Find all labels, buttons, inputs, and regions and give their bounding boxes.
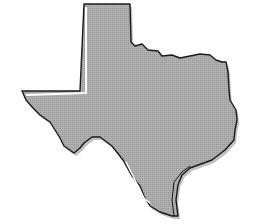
texas-highlight (26, 7, 86, 95)
texas-map (0, 0, 253, 224)
texas-shape (22, 4, 237, 216)
